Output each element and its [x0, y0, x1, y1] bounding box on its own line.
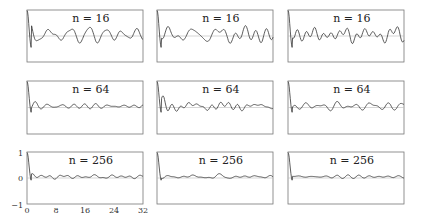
y-tick-label: 1 [18, 149, 23, 158]
panel-r0-c2: n = 16 [288, 10, 404, 62]
panel-label: n = 64 [202, 83, 239, 96]
panel-r2-c0: n = 256 [27, 152, 143, 204]
x-tick-label: 32 [138, 206, 148, 213]
chart-grid: n = 16n = 16n = 16n = 64n = 64n = 64n = … [0, 0, 423, 213]
x-tick-label: 8 [53, 206, 58, 213]
x-tick-label: 24 [109, 206, 119, 213]
x-tick-label: 0 [24, 206, 29, 213]
panel-label: n = 64 [333, 83, 370, 96]
panel-r1-c0: n = 64 [27, 81, 143, 134]
panel-label: n = 256 [199, 154, 243, 167]
panel-r2-c1: n = 256 [157, 152, 273, 204]
x-tick-label: 16 [80, 206, 90, 213]
panel-r0-c1: n = 16 [157, 10, 273, 62]
panel-r1-c1: n = 64 [157, 81, 273, 134]
panel-label: n = 16 [72, 12, 109, 25]
panel-r2-c2: n = 256 [288, 152, 404, 204]
y-tick-label: −1 [11, 201, 23, 210]
panel-label: n = 256 [69, 154, 113, 167]
panel-label: n = 256 [330, 154, 374, 167]
panel-r0-c0: n = 16 [27, 10, 143, 62]
panel-r1-c2: n = 64 [288, 81, 404, 134]
panel-label: n = 16 [333, 12, 370, 25]
y-tick-label: 0 [18, 174, 23, 183]
panel-label: n = 16 [202, 12, 239, 25]
panel-label: n = 64 [72, 83, 109, 96]
